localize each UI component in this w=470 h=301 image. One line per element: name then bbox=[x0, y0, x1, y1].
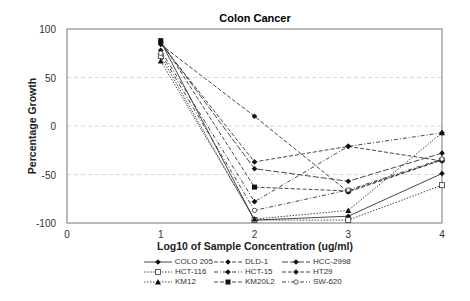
legend-label: SW-620 bbox=[313, 277, 342, 286]
chart-title: Colon Cancer bbox=[219, 12, 291, 24]
legend-item: KM12 bbox=[143, 277, 213, 286]
y-tick-label: -100 bbox=[36, 218, 56, 229]
y-tick-label: -50 bbox=[42, 170, 57, 181]
series-hct-116 bbox=[158, 54, 444, 223]
legend-item: HCC-2998 bbox=[281, 257, 371, 266]
legend-item: HCT-116 bbox=[143, 267, 213, 276]
legend-label: COLO 205 bbox=[175, 257, 213, 266]
x-tick-label: 2 bbox=[252, 229, 258, 240]
legend-swatch-icon bbox=[281, 268, 311, 276]
x-axis-ticks: 01234 bbox=[64, 229, 445, 240]
legend-swatch-icon bbox=[213, 268, 243, 276]
legend-swatch-icon bbox=[213, 258, 243, 266]
series-colo-205 bbox=[158, 39, 445, 223]
line-chart: Colon Cancer 100500-50-100 01234 Percent… bbox=[0, 0, 470, 301]
legend-swatch-icon bbox=[143, 268, 173, 276]
legend-item: HCT-15 bbox=[213, 267, 281, 276]
legend-label: HCC-2998 bbox=[313, 257, 351, 266]
legend-swatch-icon bbox=[281, 278, 311, 286]
y-axis-ticks: 100500-50-100 bbox=[36, 24, 56, 229]
y-axis-label: Percentage Growth bbox=[26, 78, 38, 174]
legend-item: KM20L2 bbox=[213, 277, 281, 286]
legend-swatch-icon bbox=[143, 258, 173, 266]
legend-label: HCT-15 bbox=[245, 267, 273, 276]
x-tick-label: 1 bbox=[158, 229, 164, 240]
x-tick-label: 0 bbox=[64, 229, 70, 240]
legend: COLO 205DLD-1HCC-2998HCT-116HCT-15HT29KM… bbox=[143, 257, 393, 286]
legend-swatch-icon bbox=[213, 278, 243, 286]
legend-item: HT29 bbox=[281, 267, 371, 276]
series-hcc-2998 bbox=[158, 40, 445, 184]
series-lines bbox=[158, 38, 445, 223]
legend-label: KM20L2 bbox=[245, 277, 275, 286]
legend-label: HCT-116 bbox=[175, 267, 206, 276]
legend-swatch-icon bbox=[281, 258, 311, 266]
series-km12 bbox=[158, 58, 445, 222]
x-axis-label: Log10 of Sample Concentration (ug/ml) bbox=[157, 240, 353, 252]
legend-label: HT29 bbox=[313, 267, 333, 276]
x-tick-label: 4 bbox=[439, 229, 445, 240]
legend-label: DLD-1 bbox=[245, 257, 268, 266]
legend-item: SW-620 bbox=[281, 277, 371, 286]
y-tick-label: 100 bbox=[39, 24, 56, 35]
y-tick-label: 0 bbox=[50, 121, 56, 132]
legend-label: KM12 bbox=[175, 277, 196, 286]
y-tick-label: 50 bbox=[45, 73, 57, 84]
series-km20l2 bbox=[158, 38, 444, 193]
legend-item: DLD-1 bbox=[213, 257, 281, 266]
legend-swatch-icon bbox=[143, 278, 173, 286]
legend-item: COLO 205 bbox=[143, 257, 213, 266]
x-tick-label: 3 bbox=[345, 229, 351, 240]
